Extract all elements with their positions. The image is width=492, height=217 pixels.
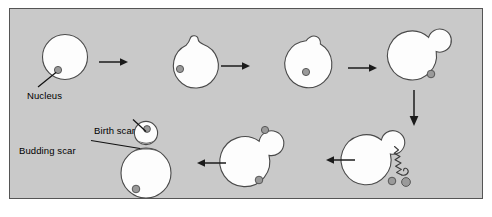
stage-1-unbudded-cell: [43, 35, 88, 80]
nucleus-marker: [427, 70, 435, 78]
budding-scar-leader-line: [91, 141, 140, 149]
nucleus-marker-bud: [261, 126, 268, 133]
mother-cell-membrane: [121, 148, 171, 198]
cell-membrane: [387, 29, 451, 80]
cell-membrane: [43, 35, 88, 80]
stage-3-small-bud: [285, 36, 332, 88]
nucleus-marker-2: [402, 178, 411, 187]
nucleus-marker: [176, 65, 183, 72]
figure-root: Nucleus Birth scar Budding scar: [0, 0, 492, 217]
cell-membrane: [173, 36, 218, 88]
stage-4-growing-bud: [387, 29, 451, 80]
nucleus-leader-line: [38, 72, 56, 87]
stage-2-bud-emergence: [173, 36, 218, 88]
arrow-4: [410, 90, 419, 126]
stage-6-nucleus-migrated: [220, 126, 284, 186]
nucleus-marker-1: [388, 177, 396, 185]
yeast-budding-cycle-diagram: Nucleus Birth scar Budding scar: [9, 8, 483, 199]
arrow-3: [348, 64, 377, 72]
spindle-tail-curl: [402, 168, 408, 175]
cell-membrane: [341, 131, 405, 185]
mother-nucleus-marker: [132, 185, 140, 193]
stage-5-nuclear-division: [341, 131, 410, 187]
nucleus-marker-mother: [255, 176, 263, 184]
daughter-cell-membrane: [134, 121, 157, 144]
nucleus-marker: [302, 68, 309, 75]
daughter-nucleus-marker: [144, 126, 151, 133]
arrow-2: [221, 62, 250, 70]
cell-membrane: [220, 131, 284, 187]
arrow-1: [99, 58, 128, 66]
nucleus-label: Nucleus: [27, 90, 62, 101]
cell-membrane: [285, 36, 332, 88]
budding-scar-label: Budding scar: [19, 145, 76, 156]
birth-scar-label: Birth scar: [94, 125, 135, 136]
diagram-canvas: [10, 9, 483, 199]
